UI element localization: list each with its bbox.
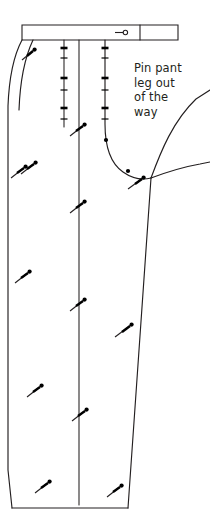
pin-head [85, 408, 89, 412]
annotation-line-3: of the [134, 90, 168, 104]
annotation-line-1: Pin pant [134, 61, 182, 75]
pin-head [40, 384, 44, 388]
pin-head [48, 480, 52, 484]
pin-head [83, 298, 87, 302]
pin-head [33, 48, 37, 52]
sewing-illustration: Pin pant leg out of the way [0, 0, 210, 528]
pin-head [83, 200, 87, 204]
pin-head [120, 484, 124, 488]
pants-pattern-drawing: Pin pant leg out of the way [0, 0, 210, 528]
pin-head [130, 323, 134, 327]
annotation-line-2: leg out [134, 76, 175, 90]
annotation-line-4: way [134, 105, 158, 119]
pin-head [24, 165, 28, 169]
pin-head [142, 176, 146, 180]
pin-head [83, 123, 87, 127]
cross-pin-head [126, 169, 130, 173]
pin-head [28, 270, 32, 274]
pin-head [34, 161, 38, 165]
cross-pin-head [104, 138, 108, 142]
